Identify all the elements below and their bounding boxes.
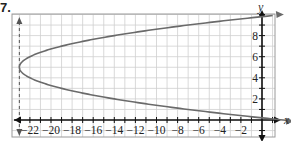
y-axis-label: y (257, 0, 264, 14)
x-axis-label: x (283, 113, 290, 127)
x-tick-label: −14 (105, 124, 123, 136)
x-tick-label: −18 (63, 124, 81, 136)
parabola-chart: −22−20−18−16−14−12−10−8−6−4−22468 x y (0, 0, 291, 141)
x-tick-label: −12 (126, 124, 144, 136)
x-tick-label: −4 (214, 124, 226, 136)
y-tick-label: 4 (252, 72, 258, 84)
x-tick-label: −22 (21, 124, 39, 136)
x-tick-label: −2 (235, 124, 247, 136)
x-tick-label: −6 (193, 124, 205, 136)
x-tick-label: −20 (42, 124, 60, 136)
y-tick-label: 2 (252, 93, 258, 105)
x-tick-label: −10 (148, 124, 166, 136)
y-tick-label: 8 (252, 30, 258, 42)
y-tick-label: 6 (252, 51, 258, 63)
curve-arrowheads (276, 11, 291, 125)
x-tick-label: −8 (171, 124, 183, 136)
parabola-curve (19, 16, 288, 121)
x-tick-label: −16 (84, 124, 102, 136)
